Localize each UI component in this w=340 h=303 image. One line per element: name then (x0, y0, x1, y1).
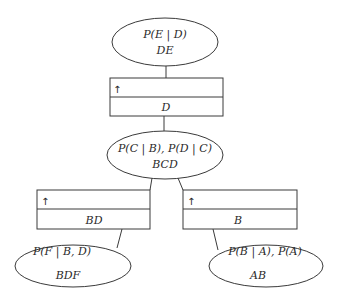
clique-bcd-ellipse (107, 131, 223, 179)
separator-b-variables: B (233, 214, 242, 227)
separator-d-message-up-arrow-icon: ↑ (113, 84, 121, 95)
separator-b: ↑ B (183, 190, 297, 229)
clique-ab-potential: P(B | A), P(A) (227, 245, 302, 259)
clique-bcd-potential: P(C | B), P(D | C) (117, 142, 212, 156)
clique-de-ellipse (112, 18, 218, 66)
clique-de: P(E | D) DE (112, 18, 218, 66)
junction-tree-diagram: P(E | D) DE ↑ D P(C | B), P(D | C) BCD ↑… (0, 0, 340, 303)
clique-bcd-variables: BCD (151, 158, 178, 171)
separator-bd-variables: BD (85, 214, 103, 227)
clique-bdf-variables: BDF (55, 269, 81, 282)
separator-d: ↑ D (110, 78, 223, 116)
clique-bdf: P(F | B, D) BDF (15, 245, 131, 287)
separator-bd: ↑ BD (37, 190, 150, 229)
edge-bd-bdf (117, 229, 122, 248)
edge-b-ab (213, 229, 218, 250)
separator-d-variables: D (161, 101, 171, 114)
clique-de-potential: P(E | D) (142, 28, 187, 42)
clique-ab-variables: AB (249, 269, 266, 282)
clique-de-variables: DE (156, 44, 174, 57)
separator-b-message-up-arrow-icon: ↑ (187, 196, 195, 207)
clique-bdf-potential: P(F | B, D) (32, 245, 91, 259)
edge-bcd-bd (150, 178, 152, 190)
clique-ab: P(B | A), P(A) AB (209, 245, 323, 287)
edge-bcd-b (178, 178, 183, 190)
separator-bd-message-up-arrow-icon: ↑ (41, 196, 49, 207)
clique-bcd: P(C | B), P(D | C) BCD (107, 131, 223, 179)
